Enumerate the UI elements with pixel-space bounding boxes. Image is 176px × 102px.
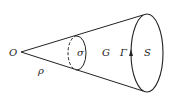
label-gamma: Γ xyxy=(119,47,128,58)
sigma-ellipse-back xyxy=(68,36,77,70)
label-sigma: σ xyxy=(77,47,85,58)
label-region: G xyxy=(102,47,110,58)
label-surface: S xyxy=(144,47,151,58)
label-apex: O xyxy=(9,47,17,58)
cone-diagram: O ρ σ G Γ S xyxy=(0,0,176,102)
gamma-arrow-icon xyxy=(129,49,133,56)
label-generatrix: ρ xyxy=(37,65,44,76)
